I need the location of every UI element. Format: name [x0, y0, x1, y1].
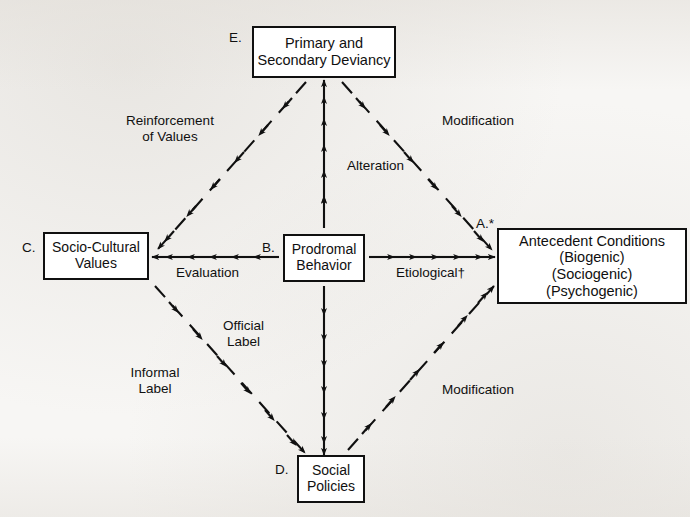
- edge-deviancy-to-values: [158, 82, 306, 249]
- node-line: Primary and: [285, 35, 363, 52]
- edge-label-line: Evaluation: [176, 265, 239, 281]
- edge-label-official-label: Official Label: [223, 318, 264, 350]
- node-line: Secondary Deviancy: [258, 52, 391, 69]
- node-key-b: B.: [262, 240, 275, 255]
- node-key-d: D.: [275, 462, 289, 477]
- edge-label-line: Official: [223, 318, 264, 334]
- region-label-line: of Values: [100, 129, 240, 145]
- node-socio-cultural-values[interactable]: Socio-Cultural Values: [43, 232, 149, 280]
- node-line: Antecedent Conditions: [519, 233, 665, 250]
- edge-label-line: Alteration: [347, 158, 404, 174]
- node-primary-and-secondary-deviancy[interactable]: Primary and Secondary Deviancy: [252, 26, 396, 78]
- node-antecedent-conditions[interactable]: Antecedent Conditions (Biogenic) (Sociog…: [497, 228, 687, 304]
- node-key-a: A.*: [476, 216, 494, 231]
- edge-label-evaluation: Evaluation: [176, 265, 239, 281]
- figure-canvas: Primary and Secondary Deviancy E. Socio-…: [0, 0, 690, 517]
- node-key-e: E.: [229, 30, 242, 45]
- node-key-c: C.: [22, 240, 36, 255]
- region-label-line: Modification: [418, 113, 538, 129]
- node-line: Behavior: [296, 258, 351, 274]
- region-label-line: Informal: [100, 365, 210, 381]
- node-line: Social: [312, 463, 350, 479]
- node-prodromal-behavior[interactable]: Prodromal Behavior: [283, 234, 365, 282]
- edge-label-line: Label: [223, 334, 264, 350]
- edge-label-alteration: Alteration: [347, 158, 404, 174]
- edge-label-line: Etiological†: [396, 265, 465, 281]
- node-line: Prodromal: [292, 242, 357, 258]
- region-label-modification-top: Modification: [418, 113, 538, 129]
- node-line: Socio-Cultural: [52, 240, 140, 256]
- region-label-line: Label: [100, 381, 210, 397]
- node-social-policies[interactable]: Social Policies: [297, 455, 365, 503]
- region-label-modification-bottom: Modification: [418, 382, 538, 398]
- node-line: Values: [75, 256, 117, 272]
- region-label-line: Reinforcement: [100, 113, 240, 129]
- node-line: (Sociogenic): [552, 266, 633, 283]
- node-line: (Psychogenic): [546, 283, 638, 300]
- node-line: Policies: [307, 479, 355, 495]
- edge-label-etiological: Etiological†: [396, 265, 465, 281]
- region-label-reinforcement-of-values: Reinforcement of Values: [100, 113, 240, 145]
- node-line: (Biogenic): [559, 249, 624, 266]
- edge-policies-to-antecedent: [348, 286, 494, 450]
- region-label-informal-label: Informal Label: [100, 365, 210, 397]
- region-label-line: Modification: [418, 382, 538, 398]
